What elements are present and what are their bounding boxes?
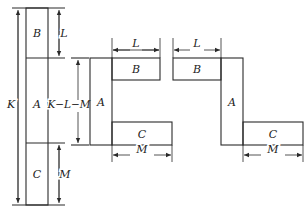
right-dim-label-l: L	[192, 37, 200, 50]
block-diagram: B A C K L K−L−M M L M B A C	[0, 0, 308, 213]
right-label-a: A	[227, 96, 236, 109]
middle-label-a: A	[96, 96, 105, 109]
left-label-a: A	[32, 98, 41, 111]
dim-label-k: K	[6, 98, 16, 111]
middle-label-c: C	[138, 128, 147, 141]
right-label-b: B	[192, 63, 201, 76]
dim-label-l: L	[59, 27, 67, 40]
dim-label-m: M	[58, 168, 71, 181]
dim-label-klm: K−L−M	[46, 98, 90, 110]
left-label-c: C	[33, 168, 42, 181]
right-figure: L M B A C	[173, 37, 303, 162]
middle-dim-label-m: M	[135, 143, 148, 156]
middle-dim-label-l: L	[131, 37, 139, 50]
left-label-b: B	[32, 27, 41, 40]
right-label-c: C	[269, 128, 278, 141]
middle-label-b: B	[131, 63, 140, 76]
right-dim-label-m: M	[266, 143, 279, 156]
left-figure: B A C K L K−L−M M	[6, 8, 91, 205]
middle-figure: L M B A C	[90, 37, 172, 162]
